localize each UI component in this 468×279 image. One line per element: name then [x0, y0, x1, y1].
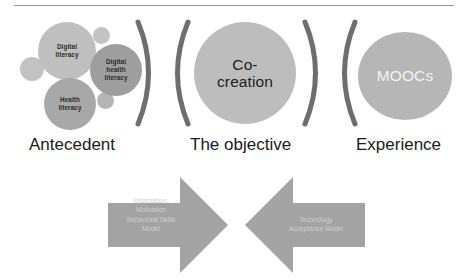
caption-the-objective: The objective: [190, 135, 291, 155]
circle-co-creation-label: Co- creation: [217, 56, 273, 91]
bubble-digital-literacy: Digital literacy: [38, 22, 96, 80]
diagram-canvas: Digital literacy Health literacy Digital…: [0, 0, 468, 279]
arrow-imb-label: Information- Motivation Behavioral Skill…: [118, 196, 184, 233]
circle-moocs-label: MOOCs: [377, 67, 433, 84]
bubble-health-literacy-label: Health literacy: [58, 96, 81, 112]
bracket-arc-close-left: [133, 18, 163, 128]
arrow-tam-label: Technology Acceptance Model: [275, 215, 357, 234]
top-divider-rule: [14, 5, 454, 6]
caption-antecedent: Antecedent: [29, 135, 115, 155]
bubble-digital-literacy-label: Digital literacy: [55, 43, 78, 59]
bracket-arc-open-right: [330, 18, 360, 128]
bracket-arc-close-right: [300, 18, 330, 128]
circle-co-creation: Co- creation: [194, 22, 296, 124]
circle-moocs: MOOCs: [358, 32, 452, 120]
bubble-digital-health-literacy-label: Digital health literacy: [104, 58, 127, 81]
bubble-health-literacy: Health literacy: [44, 78, 96, 130]
accent-dot-top: [93, 27, 110, 44]
caption-experience: Experience: [356, 135, 441, 155]
bracket-arc-open-left: [163, 18, 193, 128]
